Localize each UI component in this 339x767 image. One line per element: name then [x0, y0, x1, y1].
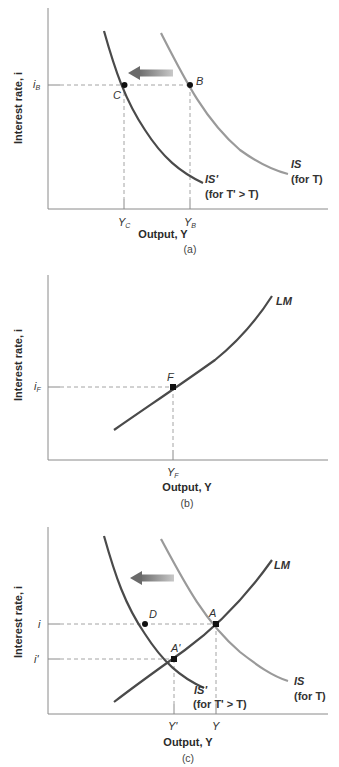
point-a-prime — [171, 656, 177, 662]
is-note: (for T) — [294, 690, 326, 702]
point-f — [170, 384, 176, 390]
svg-text:(for T' > T): (for T' > T) — [193, 698, 247, 710]
svg-text:(b): (b) — [181, 497, 194, 509]
is-prime-note: (for T' > T) — [193, 698, 247, 710]
svg-text:A: A — [208, 607, 216, 619]
x-axis-label: Output, Y — [138, 228, 188, 240]
caption-a: (a) — [184, 243, 197, 255]
is-prime-label: IS' — [205, 173, 218, 185]
svg-text:LM: LM — [276, 295, 293, 307]
caption-c: (c) — [182, 752, 194, 764]
svg-text:iF: iF — [34, 380, 41, 393]
svg-text:(for T): (for T) — [291, 173, 323, 185]
tick-i: i — [38, 618, 41, 630]
svg-text:(a): (a) — [184, 243, 197, 255]
is-prime-label: IS' — [194, 684, 207, 696]
point-a — [213, 621, 219, 627]
point-c — [122, 82, 128, 88]
panel-b: F LM iF YF Output, Y (b) Interest rate, … — [12, 275, 328, 509]
svg-text:A': A' — [170, 642, 181, 654]
svg-text:YF: YF — [167, 466, 179, 479]
panel-c: D A A' LM IS' (for T' > T) IS (for T) i … — [12, 527, 328, 764]
shift-arrow-icon — [140, 575, 174, 582]
point-a-prime-label: A' — [170, 642, 181, 654]
svg-text:F: F — [167, 371, 175, 383]
svg-text:Output, Y: Output, Y — [162, 481, 212, 493]
is-label: IS — [291, 158, 302, 170]
svg-text:IS': IS' — [194, 684, 207, 696]
point-c-label: C — [113, 89, 121, 101]
svg-text:Output, Y: Output, Y — [163, 736, 213, 748]
svg-text:IS': IS' — [205, 173, 218, 185]
lm-curve — [114, 296, 272, 430]
svg-text:i: i — [38, 618, 41, 630]
svg-text:Output, Y: Output, Y — [138, 228, 188, 240]
lm-label: LM — [274, 559, 291, 571]
tick-i-prime: i' — [34, 653, 39, 665]
svg-text:IS: IS — [294, 675, 305, 687]
x-axis-label: Output, Y — [162, 481, 212, 493]
svg-text:iB: iB — [33, 78, 40, 91]
point-a-label: A — [208, 607, 216, 619]
is-lm-diagram: C B iB YC YB IS' (for T' > T) IS (for T)… — [0, 0, 339, 767]
svg-text:i': i' — [34, 653, 39, 665]
svg-text:Y': Y' — [168, 720, 178, 732]
svg-text:Interest rate, i: Interest rate, i — [12, 586, 24, 658]
svg-text:Y: Y — [212, 720, 220, 732]
x-axis-label: Output, Y — [163, 736, 213, 748]
is-prime-curve — [104, 31, 203, 183]
svg-text:Interest rate, i: Interest rate, i — [12, 72, 24, 144]
svg-text:(for T): (for T) — [294, 690, 326, 702]
tick-y: Y — [212, 720, 220, 732]
point-b — [187, 82, 193, 88]
svg-text:LM: LM — [274, 559, 291, 571]
point-d — [142, 621, 148, 627]
panel-a: C B iB YC YB IS' (for T' > T) IS (for T)… — [12, 8, 328, 255]
caption-b: (b) — [181, 497, 194, 509]
y-axis-label: Interest rate, i — [12, 586, 24, 658]
svg-text:(for T' > T): (for T' > T) — [205, 188, 259, 200]
svg-text:(c): (c) — [182, 752, 194, 764]
tick-y-prime: Y' — [168, 720, 178, 732]
is-note: (for T) — [291, 173, 323, 185]
point-b-label: B — [196, 75, 203, 87]
is-prime-note: (for T' > T) — [205, 188, 259, 200]
shift-arrow-icon — [138, 70, 173, 77]
lm-label: LM — [276, 295, 293, 307]
svg-text:B: B — [196, 75, 203, 87]
svg-text:IS: IS — [291, 158, 302, 170]
is-curve — [161, 539, 288, 681]
svg-text:C: C — [113, 89, 121, 101]
y-axis-label: Interest rate, i — [12, 329, 24, 401]
svg-text:YC: YC — [118, 216, 131, 229]
is-curve — [161, 33, 288, 174]
is-label: IS — [294, 675, 305, 687]
svg-text:Interest rate, i: Interest rate, i — [12, 329, 24, 401]
y-axis-label: Interest rate, i — [12, 72, 24, 144]
point-d-label: D — [149, 608, 157, 620]
point-f-label: F — [167, 371, 175, 383]
svg-text:D: D — [149, 608, 157, 620]
